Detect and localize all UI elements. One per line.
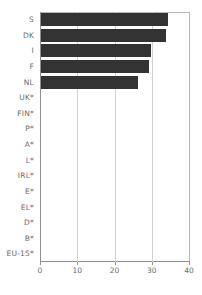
bar-row [41, 200, 190, 216]
x-tick-label: 40 [179, 266, 199, 275]
y-axis-label: B* [0, 231, 36, 247]
y-axis-label: FIN* [0, 106, 36, 122]
bar-row [41, 121, 190, 137]
bar-row [41, 215, 190, 231]
y-axis-label: A* [0, 137, 36, 153]
bar-row [41, 184, 190, 200]
plot-area [40, 12, 190, 262]
bar [41, 60, 149, 73]
x-tick-label: 30 [142, 266, 162, 275]
y-axis-label: EL* [0, 200, 36, 216]
x-tick-mark [40, 262, 41, 265]
y-axis-label: S [0, 12, 36, 28]
bar-row [41, 168, 190, 184]
y-axis-label: L* [0, 153, 36, 169]
bar [41, 29, 166, 42]
bar-row [41, 59, 190, 75]
x-axis-ticks: 010203040 [0, 262, 202, 282]
y-axis-label: DK [0, 28, 36, 44]
bar-row [41, 246, 190, 262]
y-axis-label: F [0, 59, 36, 75]
y-axis-label: UK* [0, 90, 36, 106]
y-axis-label: EU-15* [0, 246, 36, 262]
y-axis-label: I [0, 43, 36, 59]
y-axis-label: P* [0, 121, 36, 137]
x-tick-mark [77, 262, 78, 265]
x-tick-label: 10 [67, 266, 87, 275]
bar-series [41, 12, 190, 262]
bar-row [41, 28, 190, 44]
bar-chart: SDKIFNLUK*FIN*P*A*L*IRL*E*EL*D*B*EU-15* … [0, 0, 202, 295]
bar-row [41, 43, 190, 59]
bar-row [41, 106, 190, 122]
bar [41, 76, 138, 89]
bar [41, 44, 151, 57]
y-axis-label: IRL* [0, 168, 36, 184]
x-tick-label: 0 [30, 266, 50, 275]
y-axis-label: NL [0, 75, 36, 91]
bar-row [41, 231, 190, 247]
bar-row [41, 153, 190, 169]
bar-row [41, 75, 190, 91]
bar-row [41, 90, 190, 106]
x-tick-mark [115, 262, 116, 265]
x-tick-mark [152, 262, 153, 265]
bar-row [41, 137, 190, 153]
y-axis-label: D* [0, 215, 36, 231]
bar [41, 13, 168, 26]
y-axis-category-labels: SDKIFNLUK*FIN*P*A*L*IRL*E*EL*D*B*EU-15* [0, 12, 36, 262]
bar-row [41, 12, 190, 28]
x-tick-label: 20 [105, 266, 125, 275]
y-axis-label: E* [0, 184, 36, 200]
x-tick-mark [189, 262, 190, 265]
